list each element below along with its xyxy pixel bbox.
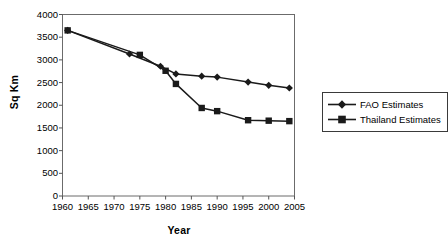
x-axis-tick-labels: 1960196519701975198019851990199520002005 <box>0 201 446 217</box>
y-tick-label: 3500 <box>20 32 58 42</box>
legend-item: Thailand Estimates <box>327 112 441 127</box>
x-axis-title: Year <box>62 224 296 236</box>
data-point-marker <box>162 68 168 74</box>
y-tick-label: 3000 <box>20 55 58 65</box>
chart-legend: FAO Estimates Thailand Estimates <box>322 92 448 132</box>
legend-label: Thailand Estimates <box>360 114 441 125</box>
y-tick-label: 0 <box>20 191 58 201</box>
legend-item: FAO Estimates <box>327 97 441 112</box>
data-point-marker <box>64 27 70 33</box>
data-point-marker <box>137 52 143 58</box>
y-tick-label: 2500 <box>20 78 58 88</box>
y-tick-label: 4000 <box>20 10 58 20</box>
data-point-marker <box>286 118 292 124</box>
diamond-marker-icon <box>327 98 357 111</box>
square-marker-icon <box>327 113 357 126</box>
data-point-marker <box>266 117 272 123</box>
x-tick-label: 2005 <box>275 201 315 212</box>
data-point-marker <box>173 81 179 87</box>
y-tick-label: 500 <box>20 168 58 178</box>
data-point-marker <box>199 105 205 111</box>
data-point-marker <box>214 108 220 114</box>
y-tick-label: 1500 <box>20 123 58 133</box>
legend-label: FAO Estimates <box>360 99 423 110</box>
y-tick-label: 1000 <box>20 146 58 156</box>
y-axis-title: Sq Km <box>8 62 20 122</box>
y-tick-label: 2000 <box>20 100 58 110</box>
data-point-marker <box>245 117 251 123</box>
